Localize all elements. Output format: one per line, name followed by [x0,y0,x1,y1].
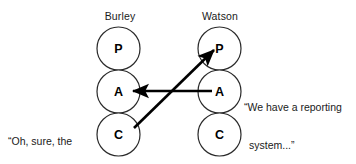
callout-watson: “We have a reporting system...” [244,76,342,164]
node-label-watson-c: C [198,128,242,142]
callout-burley: “Oh, sure, the old paperwork, blah, blah… [8,110,82,164]
node-label-watson-p: P [198,42,242,56]
node-label-watson-a: A [198,85,242,99]
diagram-canvas: Burley Watson P A C P A C “We have a rep… [0,0,356,164]
node-label-burley-p: P [97,42,141,56]
callout-watson-line-2: system...” [244,139,342,152]
callout-burley-line-1: “Oh, sure, the [8,135,82,148]
column-title-watson: Watson [180,10,260,22]
node-label-burley-c: C [97,128,141,142]
callout-watson-line-1: “We have a reporting [244,101,342,114]
column-title-burley: Burley [80,10,160,22]
node-label-burley-a: A [97,85,141,99]
